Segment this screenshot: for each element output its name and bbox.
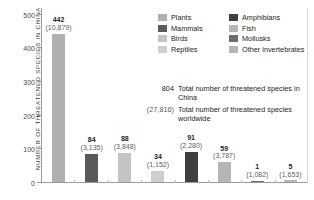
y-tick-label: 300 (23, 79, 35, 86)
y-tick (37, 115, 41, 116)
legend-item-fish[interactable]: Fish (229, 24, 307, 33)
legend-label: Plants (171, 13, 191, 22)
legend-label: Mammals (171, 24, 203, 33)
bar-value-label: 5(1,653) (279, 163, 301, 179)
bar-value-china: 88 (114, 135, 136, 143)
legend-item-reptiles[interactable]: Reptiles (158, 45, 220, 54)
bar-value-label: 88(3,848) (114, 135, 136, 151)
bar[interactable]: 59(3,787) (218, 162, 231, 182)
totals-annotation: 804 Total number of threatened species i… (129, 84, 309, 126)
bar[interactable]: 5(1,653) (284, 180, 297, 182)
threatened-species-bar-chart: NUMBER OF THREATENED SPECIES IN CHINA 01… (0, 0, 314, 200)
legend-label: Birds (171, 34, 188, 43)
legend-item-other-invertebrates[interactable]: Other invertebrates (229, 45, 307, 54)
bar-value-label: 1(1,082) (246, 163, 268, 179)
bar-value-world: (3,135) (81, 144, 103, 152)
bar-value-china: 84 (81, 136, 103, 144)
bar-value-world: (3,848) (114, 143, 136, 151)
total-world-text: Total number of threatened species world… (178, 105, 309, 123)
y-tick-label: 0 (31, 180, 35, 187)
legend-swatch-icon (158, 35, 167, 42)
legend-swatch-icon (158, 25, 167, 32)
y-tick (37, 14, 41, 15)
legend-swatch-icon (158, 14, 167, 21)
legend-label: Reptiles (171, 45, 197, 54)
bar[interactable]: 91(2,280) (185, 152, 198, 182)
bar-value-label: 34(1,152) (147, 153, 169, 169)
legend-swatch-icon (229, 35, 238, 42)
legend-item-plants[interactable]: Plants (158, 13, 220, 22)
bar-value-china: 1 (246, 163, 268, 171)
legend-swatch-icon (229, 25, 238, 32)
legend-item-amphibians[interactable]: Amphibians (229, 13, 307, 22)
legend-swatch-icon (229, 46, 238, 53)
bar-value-label: 91(2,280) (180, 134, 202, 150)
bar-value-label: 442(10,879) (46, 16, 72, 32)
bar-value-world: (3,787) (213, 152, 235, 160)
bar-value-china: 34 (147, 153, 169, 161)
y-tick (37, 148, 41, 149)
legend-label: Amphibians (242, 13, 280, 22)
bar-value-china: 59 (213, 145, 235, 153)
bar-value-world: (1,082) (246, 171, 268, 179)
total-china-text: Total number of threatened species in Ch… (178, 84, 309, 102)
y-tick (37, 182, 41, 183)
bar-value-china: 91 (180, 134, 202, 142)
bar-value-world: (10,879) (46, 24, 72, 32)
legend: PlantsMammalsBirdsReptiles AmphibiansFis… (158, 13, 308, 54)
legend-label: Other invertebrates (242, 45, 304, 54)
y-tick-label: 500 (23, 11, 35, 18)
legend-item-mollusks[interactable]: Mollusks (229, 34, 307, 43)
bar-value-world: (1,152) (147, 161, 169, 169)
legend-label: Mollusks (242, 34, 270, 43)
legend-column-primary: PlantsMammalsBirdsReptiles (158, 13, 220, 54)
bar-slot: 84(3,135) (75, 8, 108, 182)
total-world-value: (27,816) (129, 105, 178, 114)
legend-swatch-icon (158, 46, 167, 53)
bar[interactable]: 1(1,082) (251, 181, 264, 182)
legend-label: Fish (242, 24, 256, 33)
bar[interactable]: 442(10,879) (52, 34, 65, 182)
bar-value-china: 5 (279, 163, 301, 171)
legend-swatch-icon (229, 14, 238, 21)
bar-value-china: 442 (46, 16, 72, 24)
bar-slot: 442(10,879) (42, 8, 75, 182)
bar-value-world: (2,280) (180, 142, 202, 150)
bar[interactable]: 84(3,135) (85, 154, 98, 182)
bar[interactable]: 88(3,848) (118, 153, 131, 182)
y-tick-label: 400 (23, 45, 35, 52)
legend-column-secondary: AmphibiansFishMollusksOther invertebrate… (229, 13, 307, 54)
bar[interactable]: 34(1,152) (151, 171, 164, 182)
bar-value-label: 84(3,135) (81, 136, 103, 152)
legend-item-mammals[interactable]: Mammals (158, 24, 220, 33)
total-row-china: 804 Total number of threatened species i… (129, 84, 309, 102)
total-row-world: (27,816) Total number of threatened spec… (129, 105, 309, 123)
y-tick-label: 100 (23, 146, 35, 153)
legend-item-birds[interactable]: Birds (158, 34, 220, 43)
total-china-value: 804 (129, 84, 178, 93)
bar-value-world: (1,653) (279, 171, 301, 179)
y-tick (37, 47, 41, 48)
bar-value-label: 59(3,787) (213, 145, 235, 161)
y-tick (37, 81, 41, 82)
y-tick-label: 200 (23, 112, 35, 119)
